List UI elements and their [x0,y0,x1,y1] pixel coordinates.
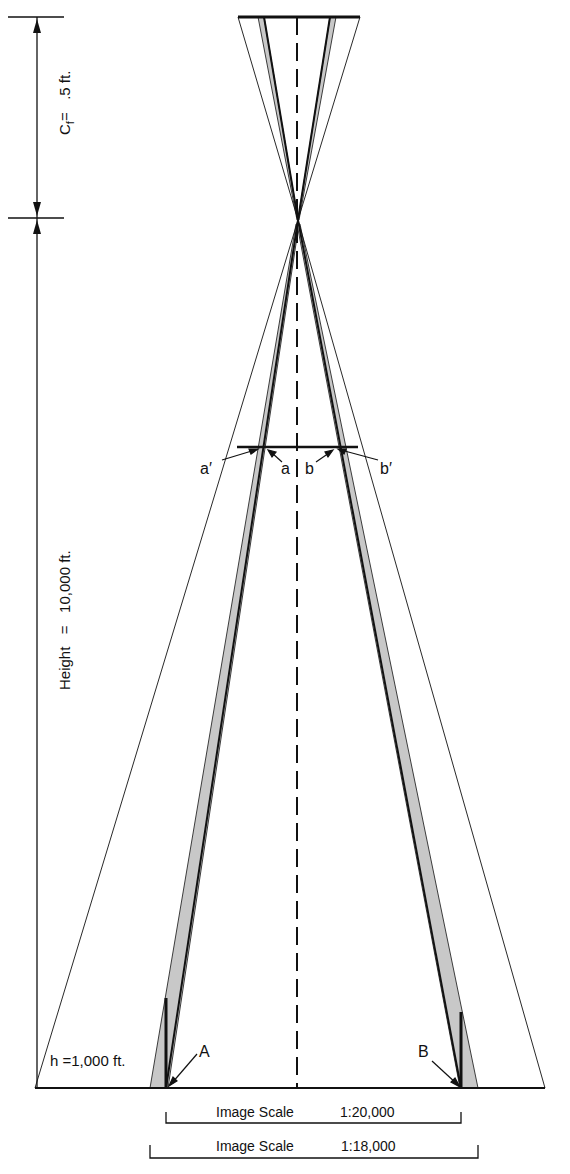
focal-length-label: Cf= .5 ft. [56,71,76,135]
principal-rays [166,17,461,1088]
label-a: a [281,460,290,477]
scale-1-value: 1:20,000 [340,1104,395,1120]
scale-2-value: 1:18,000 [341,1138,396,1154]
label-b: b [305,460,314,477]
label-A: A [199,1043,210,1060]
object-height-label: h =1,000 ft. [50,1052,125,1069]
displacement-bands [150,17,478,1088]
scale-bars [150,1112,478,1158]
label-B: B [418,1043,429,1060]
flying-height-label: Height = 10,000 ft. [56,550,73,690]
label-b-prime: b′ [380,460,392,477]
scale-1-label: Image Scale [216,1104,294,1120]
scale-2-label: Image Scale [216,1138,294,1154]
diagram-canvas: Cf= .5 ft. Height = 10,000 ft. h =1,000 … [0,0,570,1174]
label-a-prime: a′ [200,460,212,477]
